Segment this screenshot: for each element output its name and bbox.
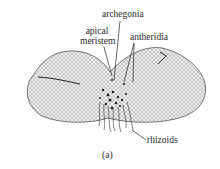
label-rhizoids: rhizoids [147, 135, 178, 145]
label-apical-meristem: apical meristem [80, 26, 114, 46]
label-apical-line2: meristem [80, 36, 114, 46]
label-antheridia: antheridia [130, 32, 168, 42]
label-archegonia: archegonia [102, 9, 144, 19]
figure-caption: (a) [102, 150, 113, 160]
prothallus-figure: archegonia apical meristem antheridia rh… [0, 0, 220, 169]
label-apical-line1: apical [80, 26, 114, 36]
